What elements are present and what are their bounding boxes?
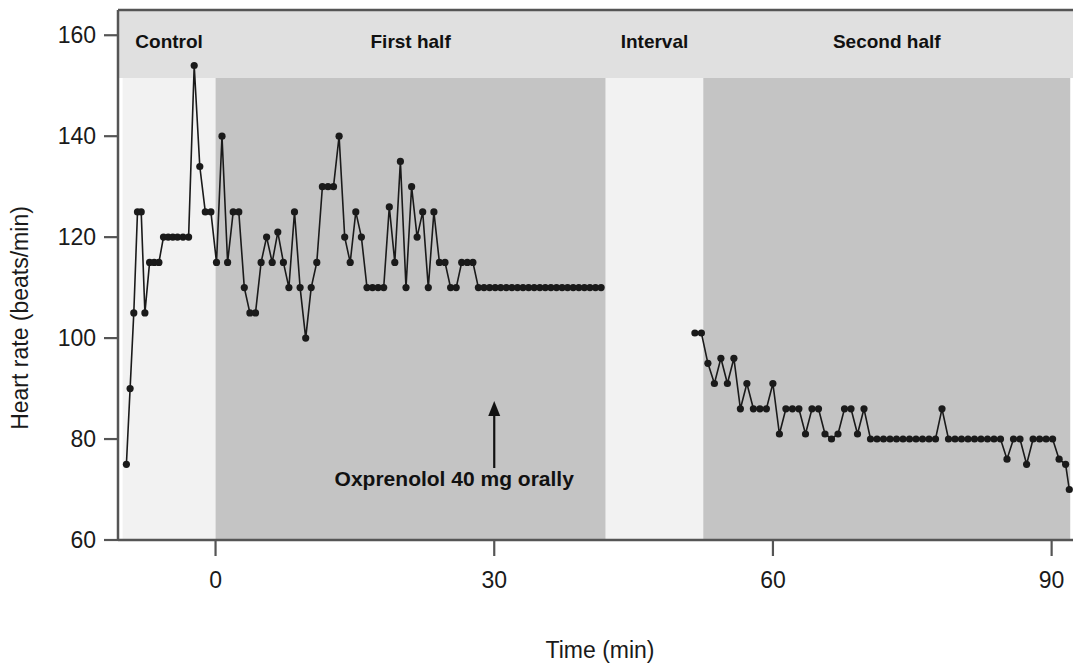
data-point-marker [763,405,770,412]
data-point-marker [1023,461,1030,468]
data-point-marker [285,284,292,291]
phase-label-control: Control [135,31,203,52]
data-point-marker [414,234,421,241]
data-point-marker [308,284,315,291]
data-point-marker [598,284,605,291]
data-point-marker [743,380,750,387]
data-point-marker [704,360,711,367]
data-point-marker [958,435,965,442]
data-point-marker [213,259,220,266]
data-point-marker [453,284,460,291]
data-point-marker [218,133,225,140]
data-point-marker [386,203,393,210]
phase-shading-bands [123,78,1071,540]
data-point-marker [873,435,880,442]
data-point-marker [1056,456,1063,463]
data-point-marker [912,435,919,442]
data-point-marker [880,435,887,442]
data-point-marker [945,435,952,442]
y-tick-label: 160 [58,22,96,48]
data-point-marker [380,284,387,291]
data-point-marker [951,435,958,442]
x-tick-label: 0 [209,567,222,593]
data-point-marker [391,259,398,266]
data-point-marker [841,405,848,412]
data-point-marker [802,430,809,437]
data-point-marker [397,158,404,165]
data-point-marker [352,208,359,215]
data-point-marker [269,259,276,266]
data-point-marker [241,284,248,291]
data-point-marker [691,329,698,336]
data-point-marker [469,259,476,266]
x-tick-label: 30 [481,567,507,593]
data-point-marker [717,355,724,362]
data-point-marker [207,208,214,215]
data-point-marker [932,435,939,442]
data-point-marker [235,208,242,215]
data-point-marker [138,208,145,215]
data-point-marker [867,435,874,442]
phase-band-control [123,78,216,540]
data-point-marker [1016,435,1023,442]
data-point-marker [815,405,822,412]
data-point-marker [1043,435,1050,442]
data-point-marker [191,62,198,69]
x-tick-label: 90 [1039,567,1065,593]
data-point-marker [990,435,997,442]
data-point-marker [750,405,757,412]
data-point-marker [925,435,932,442]
data-point-marker [756,405,763,412]
data-point-marker [821,430,828,437]
data-point-marker [402,284,409,291]
data-point-marker [737,405,744,412]
oxprenolol-annotation-label: Oxprenolol 40 mg orally [335,467,575,490]
phase-label-second-half: Second half [833,31,941,52]
data-point-marker [291,208,298,215]
data-point-marker [408,183,415,190]
data-point-marker [860,405,867,412]
data-point-marker [280,259,287,266]
data-point-marker [419,208,426,215]
data-point-marker [297,284,304,291]
data-point-marker [263,234,270,241]
data-point-marker [964,435,971,442]
data-point-marker [893,435,900,442]
data-point-marker [769,380,776,387]
data-point-marker [330,183,337,190]
data-point-marker [313,259,320,266]
data-point-marker [698,329,705,336]
data-point-marker [441,259,448,266]
data-point-marker [795,405,802,412]
data-point-marker [302,335,309,342]
data-point-marker [854,430,861,437]
y-tick-label: 120 [58,224,96,250]
data-point-marker [984,435,991,442]
data-point-marker [123,461,130,468]
chart-svg: ControlFirst halfIntervalSecond half 608… [0,0,1073,668]
data-point-marker [274,229,281,236]
phase-label-interval: Interval [621,31,689,52]
data-point-marker [185,234,192,241]
data-point-marker [711,380,718,387]
data-point-marker [336,133,343,140]
data-point-marker [1049,435,1056,442]
data-point-marker [141,309,148,316]
data-point-marker [977,435,984,442]
data-point-marker [828,435,835,442]
data-point-marker [971,435,978,442]
data-point-marker [341,234,348,241]
data-point-marker [724,380,731,387]
data-point-marker [130,309,137,316]
data-point-marker [1010,435,1017,442]
data-point-marker [782,405,789,412]
data-point-marker [258,259,265,266]
data-point-marker [808,405,815,412]
data-point-marker [1030,435,1037,442]
data-point-marker [224,259,231,266]
data-point-marker [899,435,906,442]
data-point-marker [1062,461,1069,468]
y-tick-label: 80 [70,426,96,452]
data-point-marker [127,385,134,392]
data-point-marker [347,259,354,266]
